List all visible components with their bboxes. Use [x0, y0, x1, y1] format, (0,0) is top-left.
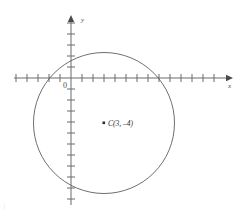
- coordinate-plane-graph: y x 0 C(3, –4) ): [0, 0, 241, 213]
- corner-mark: ): [3, 203, 5, 210]
- y-axis-label: y: [80, 16, 85, 24]
- x-axis-label: x: [227, 82, 232, 90]
- center-point-marker: [103, 122, 106, 125]
- center-point-label: C(3, –4): [108, 119, 134, 128]
- y-axis-arrow-icon: [68, 15, 74, 22]
- figure-container: y x 0 C(3, –4) ): [0, 0, 241, 213]
- x-axis-arrow-icon: [226, 75, 233, 81]
- origin-label: 0: [63, 81, 67, 90]
